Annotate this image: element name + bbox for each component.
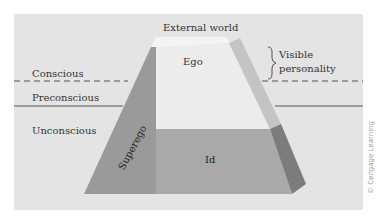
external-world-label: External world — [163, 22, 238, 33]
copyright-credit: © Cengage Learning — [367, 121, 375, 194]
unconscious-label: Unconscious — [32, 125, 96, 136]
visible-personality-label-line1: Visible — [279, 49, 313, 60]
brace-icon — [268, 47, 276, 79]
id-label: Id — [205, 154, 215, 165]
superego-region — [84, 47, 156, 194]
visible-personality-label-line2: personality — [279, 63, 336, 74]
preconscious-label: Preconscious — [32, 92, 99, 103]
id-region — [156, 129, 292, 194]
ego-label: Ego — [183, 56, 203, 67]
conscious-label: Conscious — [32, 68, 84, 79]
iceberg-diagram — [0, 0, 377, 222]
